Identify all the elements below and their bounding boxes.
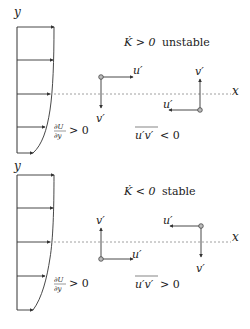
fluctuation-vector-1: u′ v′ (96, 214, 142, 261)
reynolds-stress-label: u′v′ > 0 (135, 276, 180, 291)
panel-title: K̇ > 0 unstable (123, 36, 210, 49)
velocity-arrows (17, 27, 54, 153)
fluctuation-vector-1: u′ v′ (96, 64, 143, 125)
svg-text:< 0: < 0 (160, 129, 180, 142)
x-axis-label: x (232, 230, 239, 244)
particle-dot (199, 224, 204, 229)
fluctuation-vector-2: u′ v′ (163, 65, 204, 112)
svg-text:> 0: > 0 (69, 277, 89, 290)
u-prime-label: u′ (132, 248, 142, 261)
v-prime-label: v′ (96, 112, 105, 125)
stability-diagram: y x K̇ > 0 unstable u′ v′ (0, 0, 250, 329)
y-axis-label: y (13, 159, 21, 173)
y-axis-label: y (13, 5, 21, 19)
velocity-profile-curve (33, 27, 54, 153)
v-prime-label: v′ (195, 65, 204, 78)
u-prime-label: u′ (133, 64, 143, 77)
v-prime-label: v′ (96, 214, 105, 227)
shear-gradient-label: ∂U ∂y > 0 (54, 276, 89, 293)
x-axis-label: x (232, 84, 239, 98)
u-prime-label: u′ (163, 98, 173, 111)
svg-text:u′v′: u′v′ (135, 129, 154, 142)
svg-text:∂y: ∂y (54, 285, 63, 293)
panel-stable: y x K̇ < 0 stable u′ v′ u′ (13, 159, 239, 310)
v-prime-label: v′ (196, 262, 205, 275)
particle-dot (198, 108, 203, 113)
u-prime-label: u′ (163, 214, 173, 227)
panel-unstable: y x K̇ > 0 unstable u′ v′ (13, 5, 239, 153)
svg-text:∂U: ∂U (54, 123, 65, 131)
velocity-profile-curve (33, 175, 54, 310)
fluctuation-vector-2: u′ v′ (163, 214, 205, 275)
shear-gradient-label: ∂U ∂y > 0 (54, 123, 89, 140)
panel-title: K̇ < 0 stable (123, 185, 196, 198)
velocity-arrows (17, 175, 54, 310)
svg-text:u′v′: u′v′ (135, 278, 154, 291)
particle-dot (99, 257, 104, 262)
svg-text:∂U: ∂U (54, 276, 65, 284)
svg-text:> 0: > 0 (160, 278, 180, 291)
reynolds-stress-label: u′v′ < 0 (135, 127, 180, 142)
svg-text:> 0: > 0 (69, 124, 89, 137)
svg-text:∂y: ∂y (54, 132, 63, 140)
particle-dot (99, 75, 104, 80)
